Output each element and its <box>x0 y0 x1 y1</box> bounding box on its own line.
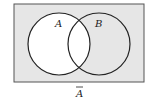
set-b-label: B <box>94 18 102 29</box>
set-a-label: A <box>54 18 62 29</box>
caption-a-complement: A <box>75 88 83 99</box>
venn-diagram: A B A <box>0 0 150 102</box>
